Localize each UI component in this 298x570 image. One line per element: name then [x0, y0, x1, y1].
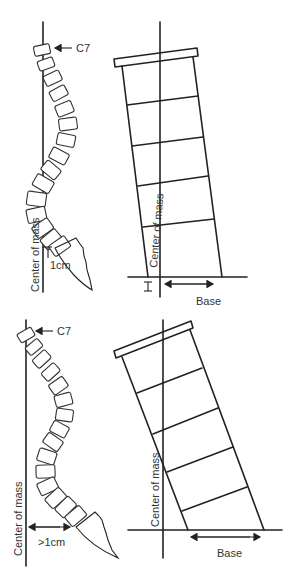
bottom-tower-right-edge: [190, 330, 264, 530]
top-spine-group: C7 1cm Center of mass: [26, 22, 92, 292]
bottom-offset-label: >1cm: [38, 536, 65, 548]
top-spine-center-of-mass-label: Center of mass: [29, 217, 41, 292]
bottom-base-label: Base: [217, 547, 242, 559]
top-tower-group: Base Center of mass: [114, 22, 247, 307]
bottom-tower-group: Base Center of mass: [114, 320, 282, 559]
bottom-spine-group: C7 >1cm Center of mass: [12, 320, 118, 566]
top-tower-left-edge: [122, 66, 148, 277]
top-base-label: Base: [196, 295, 221, 307]
top-c7-label: C7: [76, 42, 90, 54]
top-offset-label: 1cm: [50, 259, 71, 271]
bottom-tower-center-of-mass-label: Center of mass: [149, 452, 161, 527]
bottom-c7-label: C7: [57, 325, 71, 337]
top-tower-center-of-mass-label: Center of mass: [147, 192, 165, 268]
top-tower-right-edge: [193, 57, 222, 277]
bottom-vertebrae: [17, 327, 88, 527]
top-tower-cap: [114, 48, 198, 67]
bottom-spine-center-of-mass-label: Center of mass: [12, 481, 24, 556]
bottom-tower-cap: [114, 321, 193, 358]
spinal-balance-diagram: C7 1cm Center of mass Base Center of mas…: [0, 0, 298, 570]
